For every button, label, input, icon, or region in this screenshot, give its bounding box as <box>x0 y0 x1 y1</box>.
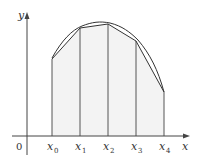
partition-label-base: x <box>131 140 138 153</box>
partition-label-x4: x 4 <box>159 140 171 155</box>
partition-label-base: x <box>103 140 110 153</box>
trapezoid-rule-diagram: y x 0 x 0 x 1 x 2 x 3 x 4 <box>0 0 198 161</box>
partition-label-sub: 2 <box>110 147 114 155</box>
partition-label-base: x <box>47 140 54 153</box>
partition-label-x0: x 0 <box>47 140 58 155</box>
partition-label-x2: x 2 <box>103 140 114 155</box>
y-axis-label: y <box>17 9 25 22</box>
x-axis-label: x <box>182 140 189 153</box>
x-axis-arrow-icon <box>183 134 190 139</box>
partition-label-base: x <box>159 140 166 153</box>
partition-label-sub: 0 <box>54 147 58 155</box>
origin-label: 0 <box>16 141 22 152</box>
partition-label-sub: 4 <box>166 147 171 155</box>
y-axis-arrow-icon <box>25 12 30 19</box>
partition-label-sub: 1 <box>82 147 86 155</box>
partition-label-base: x <box>75 140 82 153</box>
partition-label-sub: 3 <box>138 147 142 155</box>
partition-label-x3: x 3 <box>131 140 142 155</box>
partition-label-x1: x 1 <box>75 140 86 155</box>
